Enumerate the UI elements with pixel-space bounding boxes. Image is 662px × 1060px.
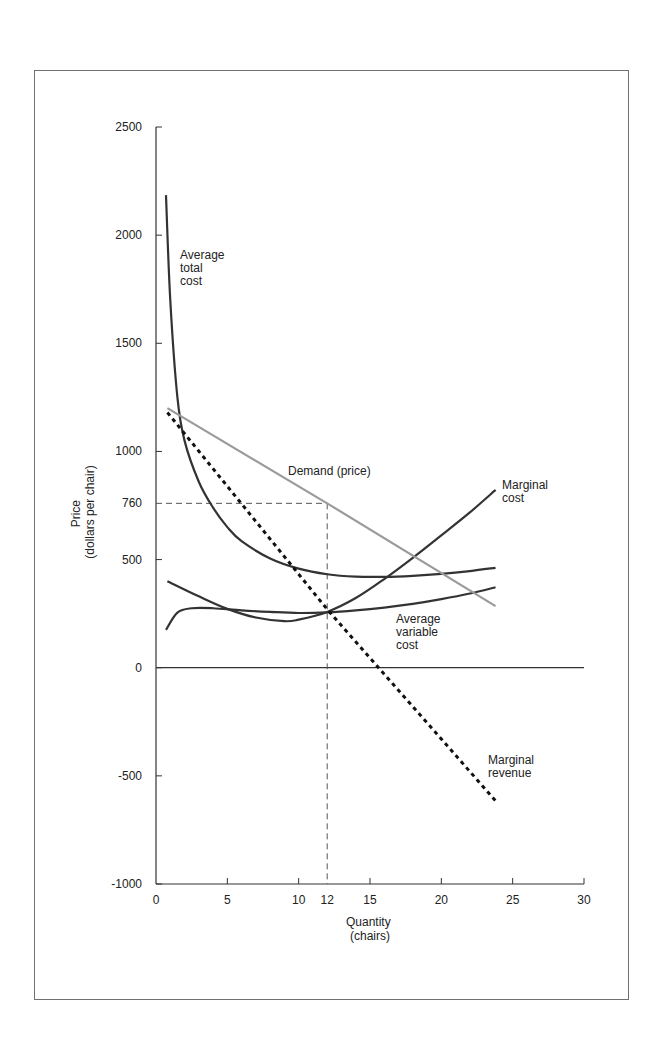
x-tick-label: 5 xyxy=(224,893,231,907)
guides xyxy=(156,503,327,884)
average-variable-cost-curve xyxy=(166,587,496,630)
marginal-revenue-label: Marginalrevenue xyxy=(488,753,534,780)
x-tick-label: 30 xyxy=(577,893,591,907)
y-tick-label: 500 xyxy=(122,553,142,567)
y-tick-label: -500 xyxy=(118,769,142,783)
curve-label-line: Demand (price) xyxy=(288,464,371,478)
x-tick-label: 10 xyxy=(292,893,306,907)
average-variable-cost-label: Averagevariablecost xyxy=(396,612,441,652)
y-tick-label: 1000 xyxy=(115,444,142,458)
curve-label-line: variable xyxy=(396,625,438,639)
x-tick-label: 12 xyxy=(321,893,335,907)
x-axis-title-main: Quantity xyxy=(346,915,391,929)
y-axis-title: Price (dollars per chair) xyxy=(69,465,97,558)
curve-label-line: Average xyxy=(180,248,225,262)
marginal-cost-curve xyxy=(167,490,495,621)
curve-label-line: Average xyxy=(396,612,441,626)
y-tick-label: 2500 xyxy=(115,120,142,134)
marginal-cost-label: Marginalcost xyxy=(502,478,548,505)
curve-labels: AveragetotalcostMarginalcostAveragevaria… xyxy=(180,248,548,780)
y-axis-title-main: Price xyxy=(69,500,83,528)
y-tick-label: 0 xyxy=(135,661,142,675)
curve-label-line: cost xyxy=(502,491,525,505)
y-axis-title-sub: (dollars per chair) xyxy=(83,465,97,558)
x-tick-label: 25 xyxy=(506,893,520,907)
demand-label: Demand (price) xyxy=(288,464,371,478)
curve-label-line: Marginal xyxy=(502,478,548,492)
curve-label-line: cost xyxy=(180,274,203,288)
y-tick-label: 760 xyxy=(122,496,142,510)
demand-curve xyxy=(167,408,495,606)
average-total-cost-label: Averagetotalcost xyxy=(180,248,225,288)
curves xyxy=(166,195,496,801)
curve-label-line: Marginal xyxy=(488,753,534,767)
y-tick-label: 2000 xyxy=(115,228,142,242)
x-axis-title: Quantity (chairs) xyxy=(346,915,394,943)
x-tick-label: 0 xyxy=(153,893,160,907)
ticks: -1000-5000500760100015002000250005101215… xyxy=(111,120,591,907)
x-tick-label: 20 xyxy=(435,893,449,907)
y-tick-label: 1500 xyxy=(115,336,142,350)
curve-label-line: cost xyxy=(396,638,419,652)
x-tick-label: 15 xyxy=(363,893,377,907)
x-axis-title-sub: (chairs) xyxy=(350,929,390,943)
curve-label-line: total xyxy=(180,261,203,275)
y-tick-label: -1000 xyxy=(111,877,142,891)
curve-label-line: revenue xyxy=(488,766,532,780)
chart: -1000-5000500760100015002000250005101215… xyxy=(0,0,662,1060)
